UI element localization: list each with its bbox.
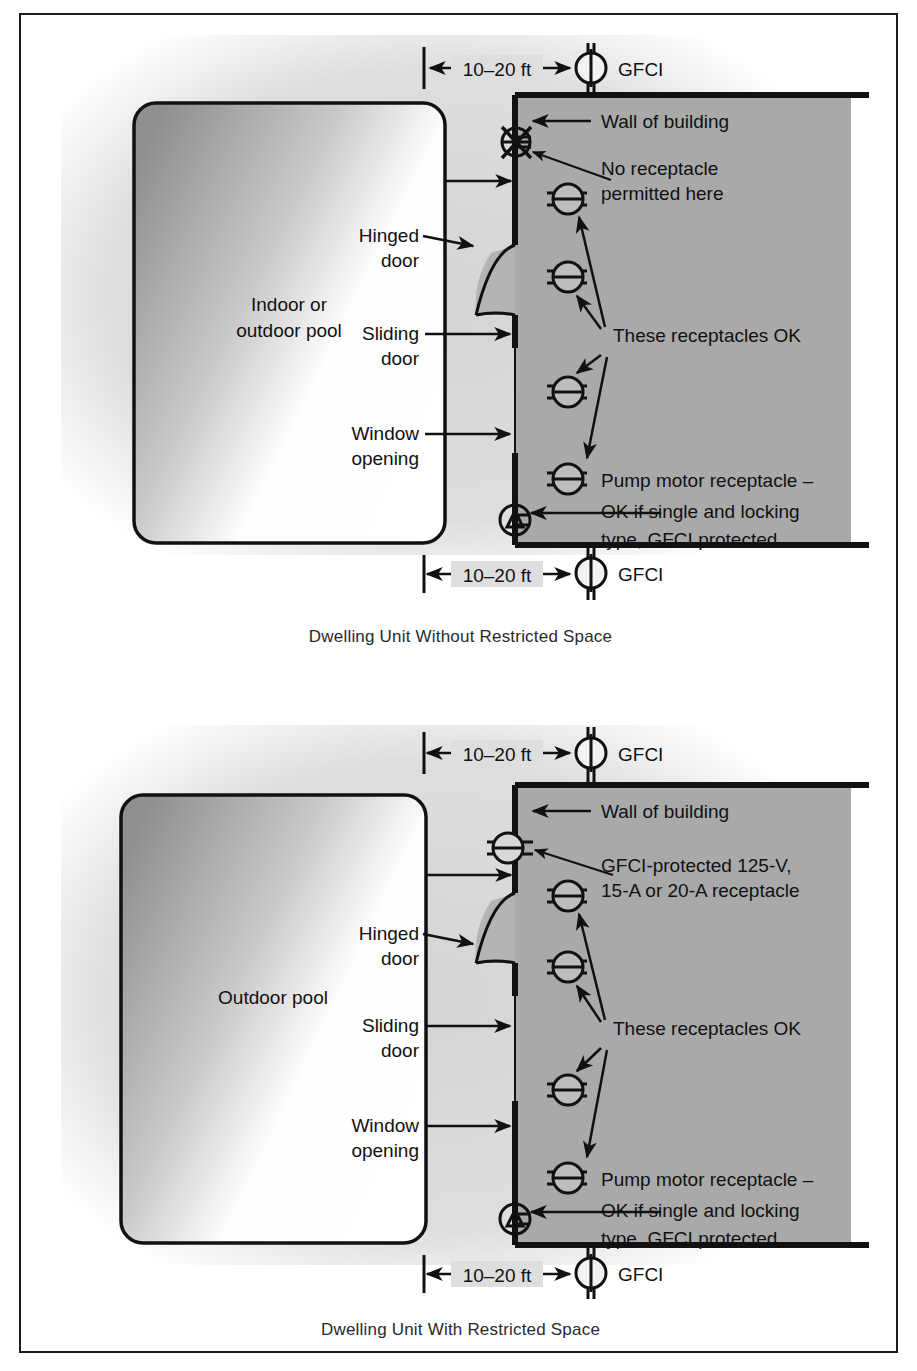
gfci-protected-label-line2: 15-A or 20-A receptacle <box>601 880 800 901</box>
receptacles-ok-label: These receptacles OK <box>613 1018 801 1039</box>
hinged-door-label-line1: Hinged <box>359 225 419 246</box>
panel-with-restricted-space: GFCI 10–20 ft GFCI 10–20 ft <box>21 705 900 1355</box>
sliding-door-label-line1: Sliding <box>362 1015 419 1036</box>
sliding-door-label-line2: door <box>381 1040 420 1061</box>
pool-label-line1: Outdoor pool <box>218 987 328 1008</box>
dimension-top-label: 10–20 ft <box>463 59 532 80</box>
dimension-bottom: 10–20 ft <box>424 555 570 593</box>
hinged-door-label-line2: door <box>381 948 420 969</box>
gfci-protected-label-line1: GFCI-protected 125-V, <box>601 855 791 876</box>
pump-label-line1: Pump motor receptacle – <box>601 1169 814 1190</box>
pool-label-line2: outdoor pool <box>236 320 342 341</box>
sliding-door-label-line2: door <box>381 348 420 369</box>
panel-without-restricted-space: GFCI 10–20 ft GFCI 10–20 ft <box>21 15 900 665</box>
dimension-bottom-label: 10–20 ft <box>463 565 532 586</box>
window-label-line1: Window <box>351 1115 419 1136</box>
gfci-bottom-label: GFCI <box>618 564 663 585</box>
hinged-door-label-line2: door <box>381 250 420 271</box>
window-label-line2: opening <box>351 448 419 469</box>
caption-panel-1: Dwelling Unit Without Restricted Space <box>21 627 900 647</box>
wall-of-building-label: Wall of building <box>601 801 729 822</box>
dimension-top-label: 10–20 ft <box>463 744 532 765</box>
figure-frame: GFCI 10–20 ft GFCI 10–20 ft <box>19 13 898 1353</box>
sliding-door-label-line1: Sliding <box>362 323 419 344</box>
window-label-line1: Window <box>351 423 419 444</box>
gfci-bottom-label: GFCI <box>618 1264 663 1285</box>
window-label-line2: opening <box>351 1140 419 1161</box>
no-receptacle-label-line1: No receptacle <box>601 158 718 179</box>
diagram-without-restricted-space: GFCI 10–20 ft GFCI 10–20 ft <box>21 15 900 615</box>
pump-label-line1: Pump motor receptacle – <box>601 470 814 491</box>
pump-label-line3: type, GFCI protected <box>601 529 777 550</box>
gfci-top-label: GFCI <box>618 744 663 765</box>
caption-panel-2: Dwelling Unit With Restricted Space <box>21 1320 900 1340</box>
receptacles-ok-label: These receptacles OK <box>613 325 801 346</box>
hinged-door-label-line1: Hinged <box>359 923 419 944</box>
pump-label-line3: type, GFCI protected <box>601 1228 777 1249</box>
pump-label-line2: OK if single and locking <box>601 501 800 522</box>
diagram-with-restricted-space: GFCI 10–20 ft GFCI 10–20 ft <box>21 705 900 1315</box>
dimension-bottom-label: 10–20 ft <box>463 1265 532 1286</box>
no-receptacle-label-line2: permitted here <box>601 183 724 204</box>
wall-of-building-label: Wall of building <box>601 111 729 132</box>
pool-label-line1: Indoor or <box>251 294 328 315</box>
pump-label-line2: OK if single and locking <box>601 1200 800 1221</box>
gfci-top-label: GFCI <box>618 59 663 80</box>
